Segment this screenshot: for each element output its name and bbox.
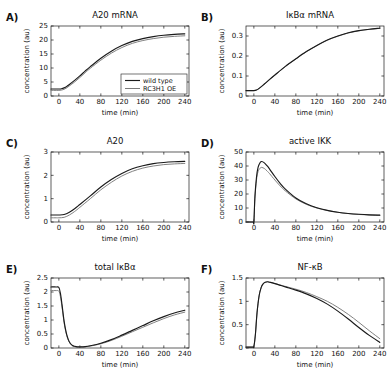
svg-text:0: 0 — [252, 224, 256, 232]
svg-text:120: 120 — [115, 350, 128, 358]
panel-a: A) A20 mRNA 040801201602002400510152025c… — [0, 0, 195, 126]
svg-text:200: 200 — [157, 98, 170, 106]
svg-text:40: 40 — [270, 224, 279, 232]
svg-text:0.2: 0.2 — [232, 52, 243, 60]
svg-text:0.5: 0.5 — [232, 321, 243, 329]
panel-c-plot: 040801201602002400123concentration (au)t… — [0, 126, 195, 252]
panel-a-plot: 040801201602002400510152025concentration… — [0, 0, 195, 126]
svg-text:3: 3 — [44, 148, 48, 156]
svg-text:50: 50 — [234, 148, 243, 156]
svg-text:200: 200 — [352, 98, 365, 106]
svg-text:30: 30 — [234, 176, 243, 184]
svg-text:0: 0 — [57, 98, 61, 106]
svg-text:0: 0 — [44, 218, 48, 226]
svg-text:20: 20 — [39, 36, 48, 44]
svg-text:1.5: 1.5 — [37, 302, 48, 310]
svg-text:160: 160 — [136, 224, 149, 232]
svg-text:0: 0 — [57, 224, 61, 232]
svg-text:0.1: 0.1 — [232, 72, 243, 80]
svg-text:160: 160 — [331, 98, 344, 106]
svg-text:160: 160 — [136, 98, 149, 106]
svg-text:240: 240 — [373, 98, 386, 106]
svg-text:time (min): time (min) — [297, 109, 334, 117]
panel-d-plot: 0408012016020024001020304050concentratio… — [195, 126, 390, 252]
svg-text:10: 10 — [39, 64, 48, 72]
svg-text:concentration (au): concentration (au) — [218, 154, 226, 219]
svg-text:1: 1 — [44, 316, 48, 324]
panel-e-plot: 0408012016020024000.511.522.5concentrati… — [0, 252, 195, 378]
panel-d: D) active IKK 04080120160200240010203040… — [195, 126, 390, 252]
svg-text:240: 240 — [178, 224, 191, 232]
svg-text:200: 200 — [157, 350, 170, 358]
svg-text:80: 80 — [96, 224, 105, 232]
svg-text:120: 120 — [310, 350, 323, 358]
svg-text:concentration (au): concentration (au) — [23, 28, 31, 93]
svg-text:concentration (au): concentration (au) — [218, 28, 226, 93]
svg-text:0: 0 — [57, 350, 61, 358]
svg-text:time (min): time (min) — [102, 109, 139, 117]
svg-text:0: 0 — [252, 350, 256, 358]
panel-c: C) A20 040801201602002400123concentratio… — [0, 126, 195, 252]
svg-text:concentration (au): concentration (au) — [23, 280, 31, 345]
svg-text:0.5: 0.5 — [37, 330, 48, 338]
svg-text:0: 0 — [44, 92, 48, 100]
svg-text:10: 10 — [234, 204, 243, 212]
svg-text:RC3H1 OE: RC3H1 OE — [143, 85, 176, 93]
svg-text:200: 200 — [352, 224, 365, 232]
panel-e: E) total IκBα 0408012016020024000.511.52… — [0, 252, 195, 379]
svg-text:wild type: wild type — [143, 77, 173, 85]
svg-text:5: 5 — [44, 78, 48, 86]
svg-text:1.5: 1.5 — [232, 274, 243, 282]
svg-text:240: 240 — [178, 350, 191, 358]
svg-text:concentration (au): concentration (au) — [218, 280, 226, 345]
svg-text:40: 40 — [234, 162, 243, 170]
svg-text:0: 0 — [239, 92, 243, 100]
svg-text:40: 40 — [270, 350, 279, 358]
svg-text:concentration (au): concentration (au) — [23, 154, 31, 219]
svg-text:200: 200 — [352, 350, 365, 358]
panel-b-plot: 0408012016020024000.10.20.3concentration… — [195, 0, 390, 126]
svg-text:120: 120 — [310, 224, 323, 232]
svg-text:120: 120 — [310, 98, 323, 106]
svg-text:time (min): time (min) — [102, 361, 139, 369]
svg-text:0: 0 — [252, 98, 256, 106]
svg-text:160: 160 — [136, 350, 149, 358]
svg-text:240: 240 — [373, 350, 386, 358]
svg-text:0.3: 0.3 — [232, 32, 243, 40]
svg-text:240: 240 — [178, 98, 191, 106]
svg-text:time (min): time (min) — [102, 235, 139, 243]
svg-text:80: 80 — [291, 98, 300, 106]
svg-text:80: 80 — [291, 350, 300, 358]
svg-text:0: 0 — [239, 218, 243, 226]
svg-text:2: 2 — [44, 288, 48, 296]
svg-text:20: 20 — [234, 190, 243, 198]
figure-container: A) A20 mRNA 040801201602002400510152025c… — [0, 0, 390, 379]
svg-text:2.5: 2.5 — [37, 274, 48, 282]
svg-text:40: 40 — [75, 224, 84, 232]
svg-text:1: 1 — [239, 298, 243, 306]
svg-text:80: 80 — [96, 350, 105, 358]
svg-text:25: 25 — [39, 22, 48, 30]
svg-text:40: 40 — [75, 350, 84, 358]
panel-b: B) IκBα mRNA 0408012016020024000.10.20.3… — [195, 0, 390, 126]
svg-text:time (min): time (min) — [297, 235, 334, 243]
svg-text:240: 240 — [373, 224, 386, 232]
panel-f: F) NF-κB 0408012016020024000.511.5concen… — [195, 252, 390, 379]
svg-text:15: 15 — [39, 50, 48, 58]
svg-text:120: 120 — [115, 98, 128, 106]
svg-text:40: 40 — [270, 98, 279, 106]
svg-text:160: 160 — [331, 350, 344, 358]
svg-text:120: 120 — [115, 224, 128, 232]
svg-text:80: 80 — [96, 98, 105, 106]
svg-text:1: 1 — [44, 195, 48, 203]
svg-text:time (min): time (min) — [297, 361, 334, 369]
svg-text:200: 200 — [157, 224, 170, 232]
svg-text:40: 40 — [75, 98, 84, 106]
svg-text:0: 0 — [239, 344, 243, 352]
svg-text:160: 160 — [331, 224, 344, 232]
svg-text:0: 0 — [44, 344, 48, 352]
svg-text:80: 80 — [291, 224, 300, 232]
svg-text:2: 2 — [44, 172, 48, 180]
panel-f-plot: 0408012016020024000.511.5concentration (… — [195, 252, 390, 378]
